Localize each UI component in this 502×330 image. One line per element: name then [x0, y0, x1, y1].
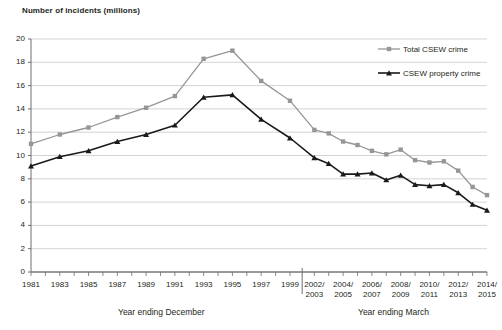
x-axis-tick-label: 1997 — [246, 280, 276, 289]
y-axis-tick-label: 12 — [9, 127, 25, 136]
chart-legend — [378, 47, 400, 76]
legend-label-total-csew-crime: Total CSEW crime — [403, 45, 468, 54]
x-axis-tick-label: 1993 — [189, 280, 219, 289]
x-axis-tick-label: 1989 — [131, 280, 161, 289]
x-axis-tick-label: 1983 — [45, 280, 75, 289]
y-axis-tick-label: 16 — [9, 81, 25, 90]
chart-container: Number of incidents (millions) 024681012… — [0, 0, 502, 330]
x-axis-tick-label: 1981 — [16, 280, 46, 289]
y-axis-tick-label: 0 — [9, 267, 25, 276]
y-axis-tick-label: 20 — [9, 34, 25, 43]
x-axis-ticks — [31, 272, 487, 276]
y-axis-tick-label: 6 — [9, 197, 25, 206]
y-axis-tick-label: 4 — [9, 220, 25, 229]
x-axis-tick-label: 1991 — [160, 280, 190, 289]
y-axis-tick-label: 18 — [9, 57, 25, 66]
x-axis-tick-label: 1985 — [74, 280, 104, 289]
legend-label-csew-property-crime: CSEW property crime — [403, 69, 480, 78]
y-axis-tick-label: 14 — [9, 104, 25, 113]
y-axis-tick-label: 8 — [9, 174, 25, 183]
x-axis-tick-label: 1987 — [102, 280, 132, 289]
x-axis-caption-december: Year ending December — [118, 307, 205, 317]
x-axis-tick-label: 1995 — [217, 280, 247, 289]
y-axis-tick-label: 2 — [9, 244, 25, 253]
y-axis-tick-label: 10 — [9, 151, 25, 160]
x-axis-caption-march: Year ending March — [358, 307, 429, 317]
x-axis-tick-label: 2014/2015 — [470, 280, 502, 300]
